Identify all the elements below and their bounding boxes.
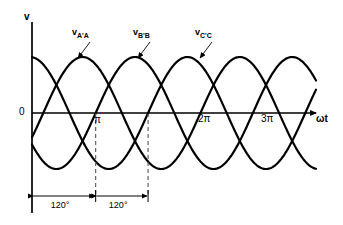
x-axis-label: ωt [316,114,328,124]
three-phase-waveform-figure: v ωt 0 π 2π 3π vA'A vB'B vC'C 120° 120° [0,0,343,225]
curve-label-c-prime-c: vC'C [195,28,212,39]
curve-label-b-sub: B'B [138,32,150,39]
leader-arrow-b [138,42,150,58]
dashed-guide-lines [96,113,148,196]
curve-label-b-prime-b: vB'B [133,28,150,39]
origin-label: 0 [19,107,25,117]
curve-label-a-prime-a: vA'A [72,28,89,39]
leader-arrow-c [200,42,212,58]
x-tick-label-3pi: 3π [261,114,273,124]
dimension-label-1: 120° [51,201,70,210]
curve-label-a-sub: A'A [77,32,89,39]
dimension-label-2: 120° [109,201,128,210]
label-leader-arrows [78,42,212,58]
curve-label-c-sub: C'C [200,32,212,39]
leader-arrow-a [78,42,90,58]
x-tick-label-2pi: 2π [198,114,210,124]
y-axis-label: v [24,12,30,22]
waveform-plot-svg [0,0,343,225]
x-tick-label-pi: π [94,115,101,125]
